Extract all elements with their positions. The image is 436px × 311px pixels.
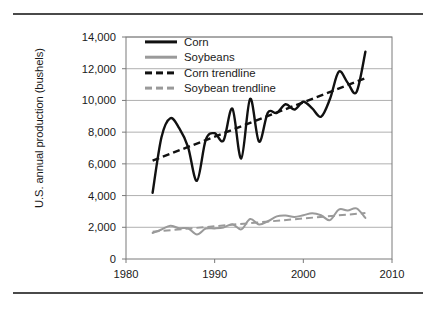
legend-item-label: Corn trendline	[184, 67, 256, 79]
legend-item-label: Soybean trendline	[184, 82, 276, 94]
chart-area: U.S. annual production (bushels) 02,0004…	[0, 18, 436, 290]
legend-item[interactable]: Corn	[145, 34, 325, 50]
figure-container: U.S. annual production (bushels) 02,0004…	[0, 0, 436, 311]
legend-item[interactable]: Soybeans	[145, 50, 325, 66]
legend-item[interactable]: Corn trendline	[145, 65, 325, 81]
legend-item-label: Corn	[184, 36, 209, 48]
figure-top-rule	[13, 13, 423, 15]
legend-swatch-icon	[145, 36, 177, 48]
series-line-soybeans	[153, 208, 366, 234]
figure-bottom-rule	[13, 292, 423, 294]
legend-swatch-icon	[145, 82, 177, 94]
legend-swatch-icon	[145, 51, 177, 63]
legend-item[interactable]: Soybean trendline	[145, 81, 325, 97]
chart-legend: CornSoybeansCorn trendlineSoybean trendl…	[145, 34, 325, 96]
legend-swatch-icon	[145, 67, 177, 79]
legend-item-label: Soybeans	[184, 51, 235, 63]
